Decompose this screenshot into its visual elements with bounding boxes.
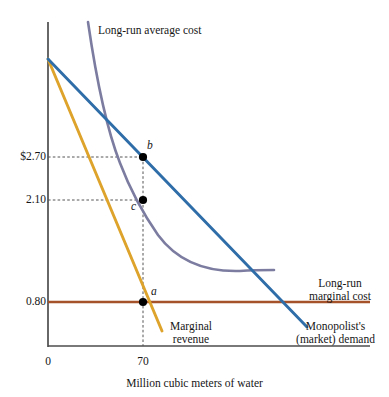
long-run-average-cost-label: Long-run average cost [98,24,201,37]
market-demand-line [48,59,307,327]
long-run-marginal-cost-label: Long-run marginal cost [292,277,388,303]
y-tick-label-270: $2.70 [8,150,46,163]
point-a-label: a [151,285,157,298]
lrmc-label-line-2: marginal cost [309,290,371,302]
mr-label-line-2: revenue [173,333,209,345]
point-a-marker [139,298,147,306]
lrmc-label-line-1: Long-run [318,277,361,289]
mr-label-line-1: Marginal [170,320,212,332]
y-tick-label-210: 2.10 [8,193,46,206]
market-demand-label: Monopolist's (market) demand [283,320,388,346]
x-tick-label-70: 70 [131,355,155,368]
natural-monopoly-chart-figure: $2.70 2.10 0.80 0 70 Million cubic meter… [0,0,389,397]
marginal-revenue-line [48,59,162,331]
long-run-average-cost-curve [88,22,274,271]
point-b-marker [139,153,147,161]
marginal-revenue-label: Marginal revenue [158,320,224,346]
x-tick-label-0: 0 [36,355,60,368]
x-axis-title: Million cubic meters of water [89,377,300,390]
point-c-marker [139,196,147,204]
point-c-label: c [131,200,136,213]
demand-label-line-2: (market) demand [296,333,375,345]
point-b-label: b [147,139,153,152]
demand-label-line-1: Monopolist's [306,320,366,332]
y-tick-label-080: 0.80 [8,295,46,308]
